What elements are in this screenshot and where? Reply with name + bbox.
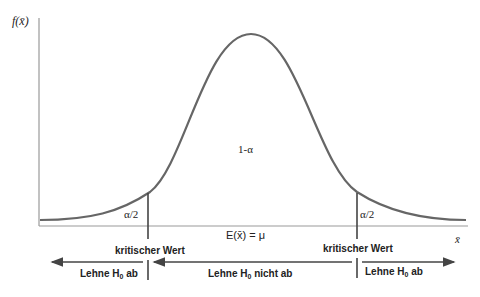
left-region-label: Lehne H0 ab — [80, 268, 138, 280]
right-tail-label: α/2 — [360, 208, 374, 220]
x-axis-label: x̄ — [455, 233, 460, 245]
right-critical-value-label: kritischer Wert — [323, 243, 393, 254]
left-tail-label: α/2 — [124, 208, 138, 220]
center-area-label: 1-α — [238, 143, 253, 155]
y-axis-label: f(x̄) — [12, 14, 29, 29]
density-curve — [40, 34, 466, 220]
middle-region-label: Lehne H0 nicht ab — [208, 268, 292, 280]
left-critical-value-label: kritischer Wert — [115, 245, 185, 256]
right-region-label: Lehne H0 ab — [365, 266, 423, 278]
expected-value-label: E(x̄) = μ — [226, 229, 265, 241]
